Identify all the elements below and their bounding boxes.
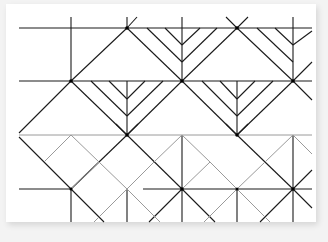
light-lines <box>19 135 312 222</box>
line-pattern <box>0 0 328 242</box>
dark-lines <box>19 17 312 222</box>
photo-frame <box>0 0 328 242</box>
